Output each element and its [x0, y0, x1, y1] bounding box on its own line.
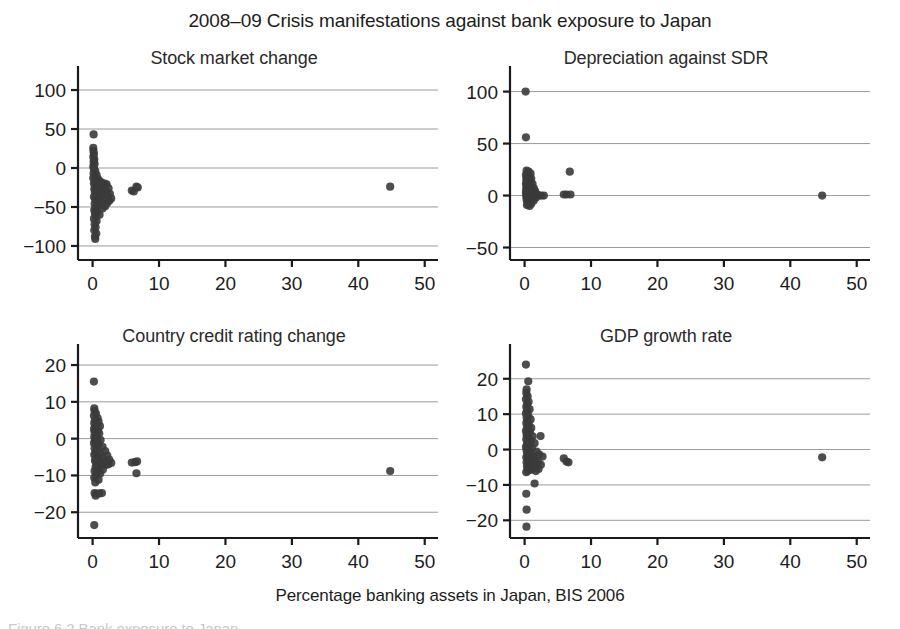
panel-depreciation-against-sdr: Depreciation against SDR 100500−50010203…: [450, 48, 882, 306]
panel-gdp-growth-rate: GDP growth rate 20100−10−2001020304050: [450, 326, 882, 584]
data-point: [522, 490, 530, 498]
y-tick-label: 50: [45, 119, 66, 140]
y-tick-label: 100: [34, 80, 66, 101]
data-point: [530, 479, 538, 487]
data-point: [818, 453, 826, 461]
x-tick-label: 40: [348, 273, 369, 294]
scatter-plot-1: 100500−5001020304050: [450, 48, 882, 306]
x-tick-label: 30: [281, 273, 302, 294]
data-point: [386, 467, 394, 475]
data-point: [90, 130, 98, 138]
y-tick-label: 20: [45, 355, 66, 376]
y-tick-label: −10: [466, 475, 498, 496]
x-tick-label: 40: [780, 273, 801, 294]
data-point: [818, 191, 826, 199]
x-tick-label: 10: [580, 551, 601, 572]
data-point: [522, 361, 530, 369]
data-point: [90, 521, 98, 529]
y-tick-label: 20: [477, 369, 498, 390]
x-tick-label: 10: [148, 551, 169, 572]
y-tick-label: 10: [45, 392, 66, 413]
y-tick-label: −100: [23, 236, 66, 257]
data-point: [92, 492, 100, 500]
data-point: [525, 202, 533, 210]
figure-container: 2008–09 Crisis manifestations against ba…: [0, 0, 900, 629]
data-point: [524, 377, 532, 385]
data-point: [523, 506, 531, 514]
y-tick-label: 0: [487, 186, 498, 207]
y-tick-label: −50: [34, 197, 66, 218]
x-tick-label: 10: [148, 273, 169, 294]
x-tick-label: 40: [348, 551, 369, 572]
shared-x-axis-caption: Percentage banking assets in Japan, BIS …: [0, 586, 900, 606]
panel-country-credit-rating-change: Country credit rating change 20100−10−20…: [18, 326, 450, 584]
x-tick-label: 20: [215, 551, 236, 572]
scatter-plot-3: 20100−10−2001020304050: [450, 326, 882, 584]
data-point: [522, 523, 530, 531]
data-point: [522, 468, 530, 476]
x-tick-label: 30: [281, 551, 302, 572]
x-tick-label: 30: [713, 273, 734, 294]
x-tick-label: 20: [647, 551, 668, 572]
data-point: [532, 467, 540, 475]
data-point: [540, 191, 548, 199]
x-tick-label: 0: [519, 551, 530, 572]
figure-number-caption: Figure 6.2 Bank exposure to Japan: [8, 620, 508, 629]
x-tick-label: 40: [780, 551, 801, 572]
x-tick-label: 50: [846, 273, 867, 294]
data-point: [536, 432, 544, 440]
data-point: [132, 469, 140, 477]
y-tick-label: −20: [466, 510, 498, 531]
x-tick-label: 50: [846, 551, 867, 572]
x-tick-label: 20: [215, 273, 236, 294]
x-tick-label: 50: [414, 551, 435, 572]
x-tick-label: 50: [414, 273, 435, 294]
x-tick-label: 0: [519, 273, 530, 294]
y-tick-label: 0: [55, 158, 66, 179]
data-point: [133, 457, 141, 465]
data-point: [566, 168, 574, 176]
data-point: [91, 235, 99, 243]
y-tick-label: 10: [477, 404, 498, 425]
y-tick-label: 0: [487, 440, 498, 461]
x-tick-label: 20: [647, 273, 668, 294]
data-point: [90, 378, 98, 386]
y-tick-label: 0: [55, 429, 66, 450]
data-point: [522, 133, 530, 141]
y-tick-label: −10: [34, 465, 66, 486]
figure-title: 2008–09 Crisis manifestations against ba…: [0, 10, 900, 32]
x-tick-label: 10: [580, 273, 601, 294]
x-tick-label: 0: [87, 551, 98, 572]
data-point: [91, 478, 99, 486]
scatter-plot-0: 100500−50−10001020304050: [18, 48, 450, 306]
y-tick-label: 50: [477, 134, 498, 155]
y-tick-label: 100: [466, 82, 498, 103]
panel-stock-market-change: Stock market change 100500−50−1000102030…: [18, 48, 450, 306]
x-tick-label: 30: [713, 551, 734, 572]
data-point: [134, 183, 142, 191]
data-point: [386, 183, 394, 191]
x-tick-label: 0: [87, 273, 98, 294]
y-tick-label: −50: [466, 238, 498, 259]
y-tick-label: −20: [34, 502, 66, 523]
data-point: [522, 87, 530, 95]
data-point: [566, 190, 574, 198]
data-point: [564, 458, 572, 466]
scatter-plot-2: 20100−10−2001020304050: [18, 326, 450, 584]
